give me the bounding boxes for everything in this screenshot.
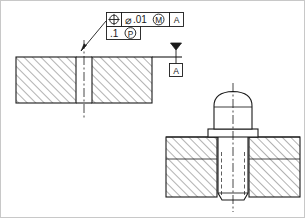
datum-filled-triangle-icon <box>171 43 182 50</box>
section-right-block-hatch <box>92 57 152 103</box>
technical-drawing-svg: ⌀ .01 M A .1 P A <box>0 0 305 218</box>
section-left-block-hatch <box>16 57 76 103</box>
projected-zone-modifier-letter: P <box>128 29 134 39</box>
fcf-projected-height: .1 <box>110 28 119 39</box>
fcf-diameter-symbol: ⌀ <box>125 14 132 26</box>
leader-arrowhead-icon <box>81 44 87 51</box>
leader-group <box>81 21 106 51</box>
fcf-tolerance-value: .01 <box>133 14 147 25</box>
assembly-view-group <box>166 83 300 212</box>
feature-control-frame[interactable]: ⌀ .01 M A .1 P <box>107 13 184 40</box>
assembly-left-plate-hatch <box>166 137 217 197</box>
mmc-modifier-letter: M <box>155 15 162 25</box>
drawing-canvas: ⌀ .01 M A .1 P A <box>0 0 305 218</box>
assembly-right-plate-hatch <box>249 137 300 197</box>
datum-label-letter: A <box>173 66 179 76</box>
fcf-datum-reference: A <box>174 15 180 25</box>
datum-feature-symbol[interactable]: A <box>170 43 183 77</box>
section-view-group <box>16 40 182 118</box>
